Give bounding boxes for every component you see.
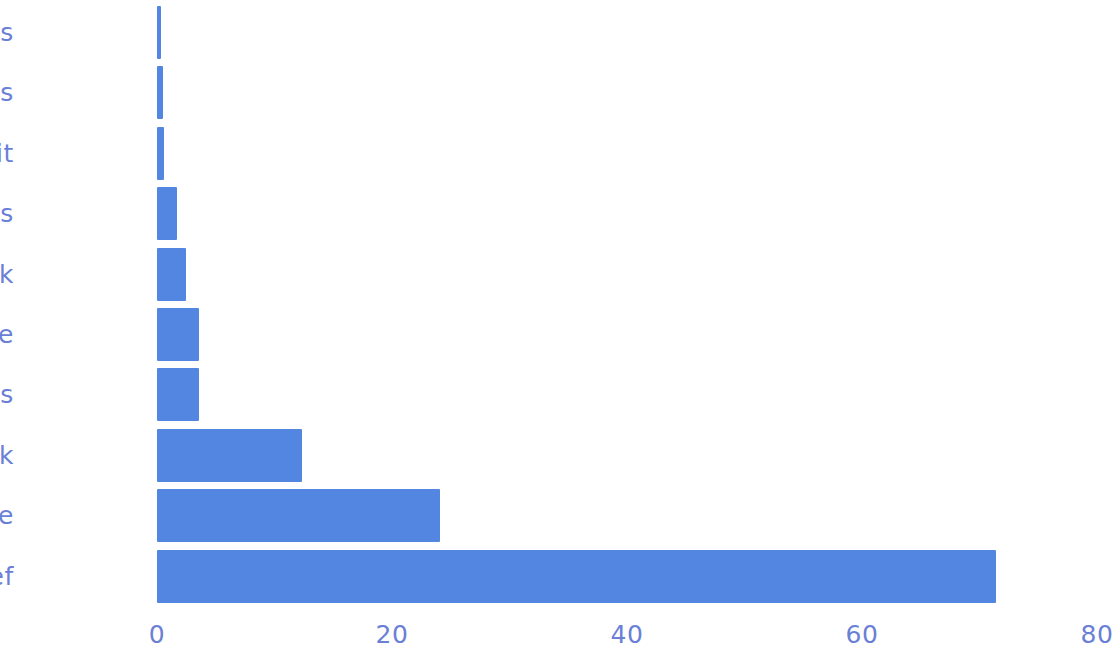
x-axis-tick-label: 80 (1080, 620, 1113, 649)
bar-category-label: Rice (0, 308, 14, 361)
bar-row: Pork (0, 429, 1118, 482)
bar-category-label: Vegetables (0, 66, 14, 119)
x-axis-tick-label: 20 (375, 620, 408, 649)
bar[interactable] (157, 187, 177, 240)
x-axis-tick-label: 60 (845, 620, 878, 649)
bar-row: Cheese (0, 489, 1118, 542)
bar[interactable] (157, 66, 163, 119)
bar-row: Legumes (0, 187, 1118, 240)
x-axis: 020406080 (0, 614, 1118, 660)
bar[interactable] (157, 550, 996, 603)
x-axis-tick-label: 40 (610, 620, 643, 649)
plot-area: NutsVegetablesFruitLegumesMilkRiceGrains… (0, 0, 1118, 660)
bar-row: Rice (0, 308, 1118, 361)
bar-category-label: Legumes (0, 187, 14, 240)
bar-category-label: Nuts (0, 6, 14, 59)
bar-chart: NutsVegetablesFruitLegumesMilkRiceGrains… (0, 0, 1118, 660)
bar-category-label: Cheese (0, 489, 14, 542)
bar[interactable] (157, 429, 302, 482)
bar-row: Grains (0, 368, 1118, 421)
bar-category-label: Milk (0, 248, 14, 301)
bar-row: Vegetables (0, 66, 1118, 119)
bar[interactable] (157, 6, 161, 59)
bar-category-label: Grains (0, 368, 14, 421)
bar-row: Beef (0, 550, 1118, 603)
bar-category-label: Fruit (0, 127, 14, 180)
bar-row: Nuts (0, 6, 1118, 59)
bar-category-label: Beef (0, 550, 14, 603)
bar[interactable] (157, 368, 199, 421)
x-axis-tick-label: 0 (149, 620, 166, 649)
bar-row: Milk (0, 248, 1118, 301)
bar[interactable] (157, 489, 440, 542)
bar[interactable] (157, 308, 199, 361)
bar[interactable] (157, 127, 164, 180)
bar[interactable] (157, 248, 186, 301)
bar-row: Fruit (0, 127, 1118, 180)
bar-category-label: Pork (0, 429, 14, 482)
